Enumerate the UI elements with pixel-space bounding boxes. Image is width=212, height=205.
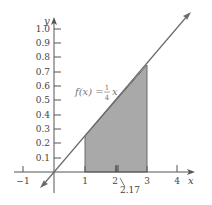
y-axis-label: y	[43, 15, 50, 26]
y-tick-0.9: 0.9	[36, 38, 51, 48]
y-tick-0.7: 0.7	[36, 67, 51, 77]
y-tick-0.6: 0.6	[36, 81, 51, 91]
y-tick-0.4: 0.4	[36, 110, 51, 120]
x-tick-neg1: −1	[16, 176, 29, 186]
y-tick-labels: 0.1 0.2 0.3 0.4 0.5 0.6 0.7 0.8 0.9 1.0	[36, 24, 51, 163]
x-axis-label: x	[188, 175, 194, 186]
x-tick-2: 2	[112, 176, 118, 186]
fraction-numerator: 1	[105, 84, 109, 92]
function-label: f(x) = 1 4 x	[74, 84, 118, 102]
x-tick-4: 4	[174, 176, 180, 186]
function-label-var: x	[112, 86, 118, 97]
y-axis	[51, 17, 61, 193]
y-tick-0.1: 0.1	[36, 153, 50, 163]
x-tick-labels: −1 1 2 3 4 2.17	[16, 176, 180, 195]
y-tick-0.5: 0.5	[36, 95, 51, 105]
fraction-denominator: 4	[105, 94, 110, 102]
shaded-area-region	[85, 65, 147, 172]
function-label-prefix: f(x) =	[74, 86, 104, 97]
y-tick-0.8: 0.8	[36, 52, 51, 62]
x-tick-1: 1	[82, 176, 88, 186]
function-area-chart: 0.1 0.2 0.3 0.4 0.5 0.6 0.7 0.8 0.9 1.0 …	[0, 0, 212, 205]
y-tick-0.2: 0.2	[36, 138, 50, 148]
annotation-2-17: 2.17	[120, 185, 140, 195]
y-tick-0.3: 0.3	[36, 124, 51, 134]
x-tick-3: 3	[144, 176, 150, 186]
